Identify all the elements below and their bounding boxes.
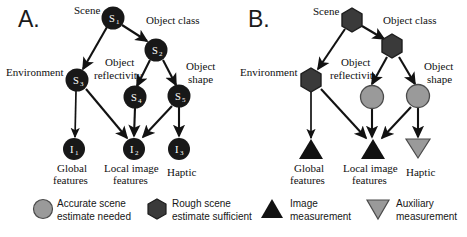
circle-gray-icon — [34, 200, 53, 219]
node-b-object-class-label: Object class — [383, 14, 436, 26]
node-b-local-image-features[interactable] — [361, 139, 385, 159]
node-a-s1[interactable]: S 1 — [102, 7, 125, 30]
node-a-s1-sub: 1 — [116, 18, 120, 26]
node-b-i3-label: Haptic — [406, 166, 435, 178]
node-b-shape-label-1: Object — [424, 60, 453, 72]
node-a-i3[interactable]: I 3 — [168, 138, 190, 160]
panel-b: B. Scene Object class — [240, 5, 453, 186]
edge-b-s1-s2 — [362, 26, 384, 39]
node-a-i3-id: I — [175, 144, 179, 155]
node-a-s1-id: S — [109, 13, 115, 24]
legend-auxiliary-line2: measurement — [396, 211, 457, 222]
node-b-environment[interactable] — [301, 68, 321, 92]
node-b-object-shape[interactable] — [407, 85, 430, 108]
node-a-s4[interactable]: S 4 — [124, 86, 147, 109]
node-a-s2-id: S — [152, 45, 158, 56]
node-a-s4-label-1: Object — [105, 56, 134, 68]
edge-s2-s5 — [163, 60, 176, 85]
node-a-i1[interactable]: I 1 — [63, 138, 85, 160]
node-a-s5[interactable]: S 5 — [168, 85, 191, 108]
legend: Accurate scene estimate needed Rough sce… — [34, 198, 458, 222]
node-b-object-class[interactable] — [382, 34, 402, 58]
node-a-i3-label: Haptic — [167, 166, 196, 178]
node-a-i2-label-2: features — [113, 174, 148, 186]
diagram-canvas: A. S 1 Scene S — [0, 0, 467, 237]
hexagon-dark-icon — [148, 199, 166, 219]
legend-rough-line2: estimate sufficient — [172, 211, 252, 222]
edge-s3-i1 — [75, 91, 76, 137]
node-b-environment-label: Environment — [240, 66, 297, 78]
node-b-i2-label-1: Local image — [343, 162, 398, 174]
node-a-s3-label: Environment — [6, 66, 63, 78]
edge-s3-i2 — [86, 89, 127, 138]
node-a-s5-sub: 5 — [182, 96, 186, 104]
legend-image-line1: Image — [290, 198, 318, 209]
node-b-scene-label: Scene — [313, 5, 339, 17]
node-a-s3-id: S — [73, 75, 79, 86]
node-a-i1-label-2: features — [53, 174, 88, 186]
node-a-i3-sub: 3 — [180, 149, 184, 157]
node-b-i1-label-2: features — [290, 174, 325, 186]
node-a-s2-label: Object class — [146, 14, 199, 26]
panel-a-letter: A. — [18, 6, 40, 32]
node-a-s5-label-1: Object — [186, 60, 215, 72]
figure-root: A. S 1 Scene S — [0, 0, 467, 237]
node-b-global-features[interactable] — [299, 139, 323, 159]
legend-image-line2: measurement — [290, 211, 351, 222]
node-a-i1-id: I — [70, 144, 74, 155]
node-a-s4-id: S — [131, 92, 137, 103]
panel-b-letter: B. — [248, 6, 270, 32]
edge-s5-i2 — [143, 106, 172, 137]
edge-b-s3-i2 — [321, 89, 366, 138]
node-b-shape-label-2: shape — [427, 73, 452, 85]
legend-item-rough-scene: Rough scene estimate sufficient — [148, 198, 252, 222]
node-a-s3-sub: 3 — [80, 80, 84, 88]
node-a-s4-label-2: reflectivity — [94, 69, 143, 81]
node-a-i2[interactable]: I 2 — [123, 138, 145, 160]
node-a-s5-label-2: shape — [188, 73, 213, 85]
node-b-scene[interactable] — [342, 8, 362, 32]
edge-b-s2-s5 — [399, 57, 415, 84]
legend-rough-line1: Rough scene — [172, 198, 231, 209]
node-b-haptic[interactable] — [406, 139, 430, 158]
node-a-i2-sub: 2 — [135, 149, 139, 157]
edge-s1-s2 — [122, 25, 147, 41]
node-a-i1-label-1: Global — [57, 162, 87, 174]
node-a-i2-label-1: Local image — [104, 162, 159, 174]
node-b-reflectivity-label-2: reflectivity — [330, 69, 379, 81]
node-a-s2-sub: 2 — [159, 50, 163, 58]
legend-accurate-line2: estimate needed — [57, 211, 131, 222]
node-b-i2-label-2: features — [352, 174, 387, 186]
node-b-reflectivity-label-1: Object — [341, 56, 370, 68]
edge-b-s5-i2 — [382, 107, 411, 138]
edge-s4-i2 — [134, 108, 135, 136]
legend-item-accurate-scene: Accurate scene estimate needed — [34, 198, 131, 222]
triangle-down-gray-icon — [367, 200, 389, 219]
node-a-i2-id: I — [130, 144, 134, 155]
node-a-s4-sub: 4 — [138, 97, 142, 105]
node-a-s1-label: Scene — [74, 4, 100, 16]
node-b-object-reflectivity[interactable] — [361, 86, 384, 109]
node-a-s5-id: S — [175, 91, 181, 102]
node-b-i1-label-1: Global — [294, 162, 324, 174]
node-a-s3[interactable]: S 3 — [66, 69, 89, 92]
panel-a: A. S 1 Scene S — [6, 4, 215, 186]
legend-item-image-measurement: Image measurement — [261, 198, 351, 222]
triangle-up-dark-icon — [261, 199, 283, 218]
node-a-i1-sub: 1 — [75, 149, 79, 157]
node-a-s2[interactable]: S 2 — [145, 39, 168, 62]
edge-s1-s3 — [83, 27, 107, 69]
legend-item-auxiliary-measurement: Auxiliary measurement — [367, 198, 457, 222]
legend-accurate-line1: Accurate scene — [57, 198, 126, 209]
legend-auxiliary-line1: Auxiliary — [396, 198, 434, 209]
